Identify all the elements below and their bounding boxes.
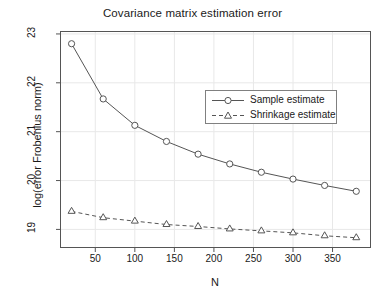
x-tick-label: 50 [75, 253, 115, 264]
x-tick-label: 350 [313, 253, 353, 264]
data-point-triangle [226, 225, 233, 231]
data-point-triangle [68, 207, 75, 213]
y-tick-label: 23 [26, 17, 37, 47]
data-point-triangle [353, 234, 360, 240]
x-tick-label: 100 [115, 253, 155, 264]
y-tick-label: 21 [26, 115, 37, 145]
data-point-triangle [321, 232, 328, 238]
data-point-triangle [163, 221, 170, 227]
data-point-circle [258, 169, 264, 175]
data-point-triangle [100, 214, 107, 220]
x-tick-label: 200 [194, 253, 234, 264]
legend-item-0: Sample estimate [206, 93, 338, 108]
data-point-triangle [195, 222, 202, 228]
legend-label-0: Sample estimate [250, 94, 324, 105]
chart-legend: Sample estimate Shrinkage estimate [205, 90, 337, 124]
legend-marker-circle-icon [210, 93, 248, 108]
legend-marker-triangle-icon [210, 108, 248, 123]
data-point-circle [68, 41, 74, 47]
x-tick-label: 150 [154, 253, 194, 264]
x-tick-label: 250 [233, 253, 273, 264]
data-point-circle [227, 161, 233, 167]
data-point-circle [322, 182, 328, 188]
x-tick-label: 300 [273, 253, 313, 264]
chart-figure: Covariance matrix estimation error log(e… [0, 0, 385, 302]
data-point-circle [132, 122, 138, 128]
grid-lines [61, 32, 371, 248]
y-tick-label: 19 [26, 213, 37, 243]
data-point-triangle [131, 217, 138, 223]
y-tick-label: 22 [26, 66, 37, 96]
plot-frame [61, 32, 371, 248]
legend-item-1: Shrinkage estimate [206, 108, 338, 123]
axis-ticks [56, 34, 333, 252]
data-point-circle [195, 151, 201, 157]
data-point-circle [100, 96, 106, 102]
y-tick-label: 20 [26, 164, 37, 194]
data-point-circle [353, 188, 359, 194]
legend-label-1: Shrinkage estimate [250, 109, 336, 120]
data-point-circle [163, 138, 169, 144]
data-point-circle [290, 176, 296, 182]
